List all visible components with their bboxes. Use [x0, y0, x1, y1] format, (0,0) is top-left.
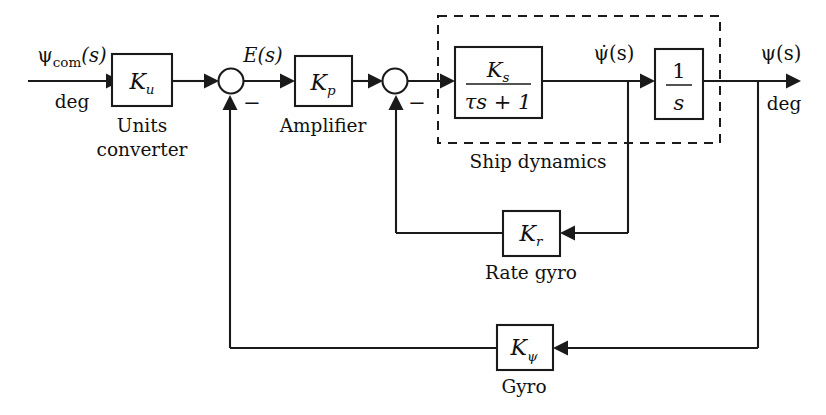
block-diagram-canvas: Ku Units converter Kp Amplifier Ks τs + … [0, 0, 826, 415]
arrowhead-gyro-input [553, 341, 568, 356]
block-rate-gyro-caption: Rate gyro [485, 262, 577, 283]
arrowhead-sum1-input [204, 74, 219, 89]
block-ship-transfer-denominator: τs + 1 [465, 90, 532, 114]
arrowhead-sum1-feedback [223, 95, 238, 110]
arrowhead-ship-transfer-input [440, 74, 455, 89]
block-units-converter-caption-line1: Units [117, 115, 167, 136]
output-signal-label: ψ(s) [761, 42, 802, 65]
arrowhead-output [786, 74, 801, 89]
ship-steering-block-diagram: Ku Units converter Kp Amplifier Ks τs + … [0, 0, 826, 415]
arrowhead-sum2-feedback [389, 95, 404, 110]
arrowhead-integrator-input [640, 74, 655, 89]
arrowhead-amplifier-input [280, 74, 295, 89]
block-amplifier-caption: Amplifier [279, 115, 367, 136]
ship-dynamics-caption: Ship dynamics [470, 151, 607, 172]
summing-junction-2-minus-sign: − [408, 91, 426, 115]
error-signal-label: E(s) [242, 44, 282, 67]
block-integrator-numerator: 1 [672, 59, 685, 83]
summing-junction-1[interactable] [219, 69, 244, 94]
block-gyro-caption: Gyro [501, 376, 546, 397]
summing-junction-1-minus-sign: − [243, 91, 261, 115]
summing-junction-2[interactable] [383, 69, 408, 94]
input-units-label: deg [55, 91, 90, 112]
block-units-converter-caption-line2: converter [97, 139, 188, 160]
input-signal-label: ψcom(s) [37, 44, 106, 70]
rate-signal-label: ψ̇(s) [594, 42, 635, 65]
arrowhead-sum2-input [368, 74, 383, 89]
block-integrator-denominator: s [674, 91, 685, 115]
arrowhead-rate-gyro-input [560, 226, 575, 241]
output-units-label: deg [767, 93, 802, 114]
